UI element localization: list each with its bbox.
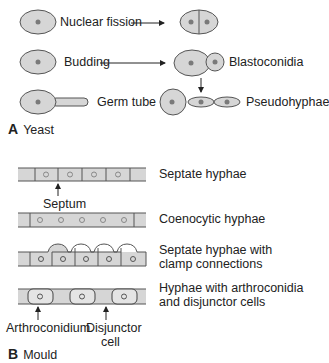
panel-a-letter: A (8, 121, 18, 137)
panel-a-caption: AYeast (8, 121, 54, 137)
panel-b-caption: BMould (8, 346, 57, 362)
pseudohyphae-chain (160, 89, 240, 115)
label-cell: cell (101, 335, 120, 349)
yeast-cell-budding-start (20, 50, 56, 74)
coenocytic-hyphae (18, 213, 146, 227)
label-arthro-line2: and disjunctor cells (159, 295, 265, 309)
label-pseudohyphae: Pseudohyphae (246, 95, 329, 109)
blastoconidia-cell (174, 50, 224, 76)
arthroconidia-hyphae (18, 289, 146, 304)
panel-b-title: Mould (23, 348, 57, 362)
label-clamp-line2: clamp connections (159, 257, 263, 271)
panel-b-letter: B (8, 346, 18, 362)
label-germ-tube: Germ tube (97, 95, 156, 109)
label-coenocytic-hyphae: Coenocytic hyphae (159, 212, 265, 226)
label-nuclear-fission: Nuclear fission (60, 15, 142, 29)
label-disjunctor: Disjunctor (86, 321, 142, 335)
label-arthroconidium: Arthroconidium (6, 321, 90, 335)
label-budding: Budding (64, 55, 110, 69)
yeast-cell-divided (180, 10, 218, 34)
clamp-connection-hyphae (18, 244, 146, 266)
label-clamp-line1: Septate hyphae with (159, 243, 272, 257)
label-septate-hyphae: Septate hyphae (159, 167, 247, 181)
label-septum: Septum (43, 197, 86, 211)
septate-hyphae (18, 168, 146, 181)
yeast-cell-fission-start (20, 10, 56, 34)
label-arthro-line1: Hyphae with arthroconidia (159, 281, 304, 295)
panel-a-title: Yeast (23, 123, 54, 137)
label-blastoconidia: Blastoconidia (229, 55, 303, 69)
germ-tube-cell (20, 90, 88, 114)
